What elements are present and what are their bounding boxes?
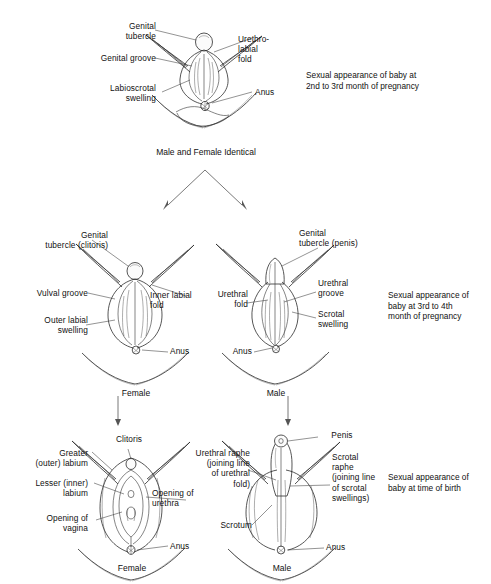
- label-anus-stage1: Anus: [255, 87, 295, 97]
- label-greater-outer-labium: Greater (outer) labium: [2, 448, 88, 468]
- stage1-name: Male and Female Identical: [126, 147, 286, 157]
- stage2-female-name: Female: [100, 388, 172, 398]
- label-labioscrotal-swelling-stage1: Labioscrotal swelling: [66, 83, 156, 103]
- stage-transition-arrows: [115, 396, 291, 426]
- label-anus-stage3-male: Anus: [326, 542, 366, 552]
- label-anus-stage3-female: Anus: [170, 541, 210, 551]
- branch-arrows: [163, 170, 247, 210]
- label-penis: Penis: [320, 430, 364, 440]
- label-scrotal-swelling: Scrotal swelling: [318, 309, 380, 329]
- label-outer-labial-swelling: Outer labial swelling: [10, 315, 88, 335]
- label-genital-groove-stage1: Genital groove: [70, 53, 156, 63]
- stage3-male-leaders: [248, 437, 330, 550]
- label-scrotum: Scrotum: [200, 520, 252, 530]
- label-genital-tubercle-stage1: Genital tubercle: [86, 21, 156, 41]
- label-urethro-labial-fold-stage1: Urethro- labial fold: [238, 34, 298, 65]
- caption-stage3: Sexual appearance of baby at time of bir…: [388, 472, 491, 493]
- stage2-male-name: Male: [244, 388, 308, 398]
- stage3-female-name: Female: [96, 563, 168, 573]
- label-lesser-inner-labium: Lesser (inner) labium: [2, 478, 88, 498]
- label-anus-stage2-male: Anus: [212, 346, 252, 356]
- label-urethral-fold: Urethral fold: [196, 289, 248, 309]
- label-genital-tubercle-clitoris: Genital tubercle (clitoris): [14, 230, 108, 250]
- label-opening-of-vagina: Opening of vagina: [6, 513, 88, 533]
- label-genital-tubercle-penis: Genital tubercle (penis): [299, 228, 399, 248]
- label-urethral-raphe: Urethral raphe (joining line of urethral…: [172, 448, 250, 489]
- stage2-female-drawing: [76, 244, 194, 385]
- label-opening-of-urethra: Opening of urethra: [152, 488, 222, 508]
- caption-stage2: Sexual appearance of baby at 3rd to 4th …: [388, 290, 491, 322]
- figure-canvas: Genital tubercle Genital groove Labioscr…: [0, 0, 491, 584]
- label-urethral-groove: Urethral groove: [318, 278, 378, 298]
- caption-stage1: Sexual appearance of baby at 2nd to 3rd …: [306, 70, 481, 91]
- stage2-male-drawing: [216, 244, 334, 385]
- label-clitoris: Clitoris: [100, 434, 158, 444]
- label-vulval-groove: Vulval groove: [10, 288, 88, 298]
- label-anus-stage2-female: Anus: [170, 346, 210, 356]
- stage3-male-name: Male: [250, 563, 314, 573]
